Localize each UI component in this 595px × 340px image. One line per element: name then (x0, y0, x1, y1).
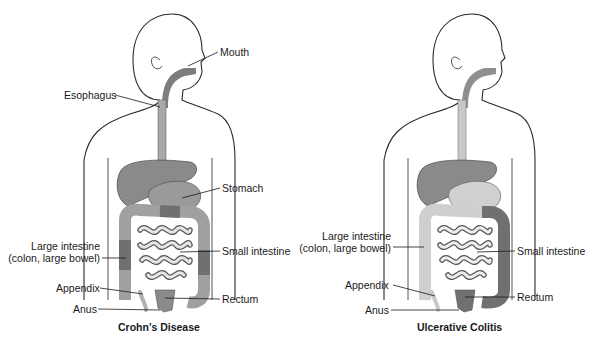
crohns-anatomy-illustration (0, 0, 298, 340)
ulcerative-colitis-anatomy-illustration (297, 0, 595, 340)
label-rectum: Rectum (517, 291, 553, 303)
label-stomach: Stomach (222, 182, 263, 194)
caption-crohns-disease: Crohn's Disease (118, 321, 200, 333)
label-rectum: Rectum (222, 293, 258, 305)
label-large-intestine-line2: (colon, large bowel) (0, 252, 100, 264)
label-appendix: Appendix (56, 282, 100, 294)
label-mouth: Mouth (220, 46, 249, 58)
label-small-intestine: Small intestine (517, 245, 585, 257)
ulcerative-colitis-panel: Large intestine (colon, large bowel) Sma… (297, 0, 595, 340)
label-anus: Anus (73, 303, 97, 315)
label-esophagus: Esophagus (64, 89, 117, 101)
crohns-disease-panel: Mouth Esophagus Stomach Large intestine … (0, 0, 298, 340)
label-large-intestine-line2: (colon, large bowel) (291, 242, 391, 254)
caption-ulcerative-colitis: Ulcerative Colitis (417, 321, 502, 333)
label-large-intestine: Large intestine (colon, large bowel) (291, 230, 391, 254)
label-anus: Anus (365, 304, 389, 316)
label-large-intestine: Large intestine (colon, large bowel) (0, 240, 100, 264)
label-appendix: Appendix (345, 279, 389, 291)
label-large-intestine-line1: Large intestine (291, 230, 391, 242)
label-small-intestine: Small intestine (222, 245, 290, 257)
label-large-intestine-line1: Large intestine (0, 240, 100, 252)
